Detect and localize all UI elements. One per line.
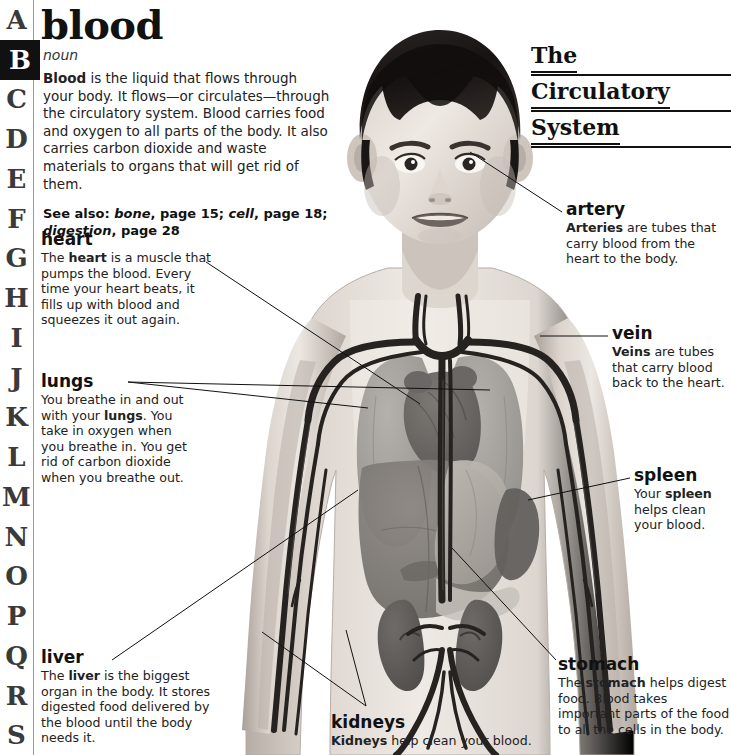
callout-vein: vein Veins are tubes that carry blood ba… (612, 324, 730, 391)
alphabet-index-j[interactable]: J (0, 358, 33, 398)
section-title-line-2: Circulatory (531, 76, 670, 109)
page-title: blood (41, 4, 331, 46)
definition-rest: is the liquid that flows through your bo… (43, 70, 329, 192)
section-title: The Circulatory System (531, 40, 731, 148)
definition-lead-word: Blood (43, 70, 86, 86)
callout-heart: heart The heart is a muscle that pumps t… (41, 230, 213, 328)
see-also-term-bone[interactable]: bone (114, 206, 150, 221)
see-also-sep-1: , (150, 206, 159, 221)
leader-line-liver (112, 490, 358, 660)
callout-liver-body: The liver is the biggest organ in the bo… (41, 668, 217, 746)
callout-kidneys-title: kidneys (331, 713, 591, 732)
part-of-speech: noun (43, 47, 331, 63)
callout-liver: liver The liver is the biggest organ in … (41, 648, 217, 746)
see-also-sep-2: ; (219, 206, 229, 221)
callout-artery: artery Arteries are tubes that carry blo… (566, 200, 726, 267)
callout-artery-body: Arteries are tubes that carry blood from… (566, 220, 726, 267)
alphabet-index-k[interactable]: K (0, 397, 33, 437)
section-title-line-3: System (531, 112, 620, 145)
callout-liver-title: liver (41, 648, 217, 667)
callout-heart-body: The heart is a muscle that pumps the blo… (41, 250, 213, 328)
alphabet-index-q[interactable]: Q (0, 636, 33, 676)
callout-vein-title: vein (612, 324, 730, 343)
section-title-line-1: The (531, 40, 577, 73)
leader-line-artery (470, 152, 562, 212)
callout-spleen-title: spleen (634, 466, 730, 485)
see-also-sep-3: , (254, 206, 263, 221)
leader-line-spleen (528, 478, 630, 500)
callout-spleen-body: Your spleen helps clean your blood. (634, 486, 730, 533)
alphabet-index-f[interactable]: F (0, 199, 33, 239)
alphabet-index-e[interactable]: E (0, 159, 33, 199)
alphabet-index-g[interactable]: G (0, 238, 33, 278)
callout-heart-title: heart (41, 230, 213, 249)
alphabet-index-s[interactable]: S (0, 715, 33, 755)
alphabet-index-o[interactable]: O (0, 556, 33, 596)
alphabet-index-l[interactable]: L (0, 437, 33, 477)
see-also-term-cell[interactable]: cell (229, 206, 254, 221)
alphabet-index-h[interactable]: H (0, 278, 33, 318)
see-also-sep-4: ; (322, 206, 327, 221)
callout-stomach-title: stomach (558, 655, 731, 674)
see-also-page-cell: page 18 (263, 206, 322, 221)
callout-lungs-body: You breathe in and out with your lungs. … (41, 392, 191, 486)
callout-vein-body: Veins are tubes that carry blood back to… (612, 344, 730, 391)
alphabet-index-a[interactable]: A (0, 0, 33, 40)
alphabet-index-d[interactable]: D (0, 119, 33, 159)
alphabet-index-r[interactable]: R (0, 676, 33, 716)
callout-lungs-title: lungs (41, 372, 191, 391)
dictionary-page: ABCDEFGHIJKLMNOPQRS blood noun Blood is … (0, 0, 731, 755)
callout-kidneys: kidneys Kidneys help clean your blood. (331, 713, 591, 749)
see-also-label: See also: (43, 206, 110, 221)
alphabet-index-n[interactable]: N (0, 517, 33, 557)
alphabet-index-m[interactable]: M (0, 477, 33, 517)
callout-kidneys-body: Kidneys help clean your blood. (331, 733, 591, 749)
callout-artery-title: artery (566, 200, 726, 219)
callout-spleen: spleen Your spleen helps clean your bloo… (634, 466, 730, 533)
leader-line-kidney-right (346, 630, 366, 706)
leader-line-heart (206, 262, 420, 404)
leader-line-kidney-left (262, 632, 366, 706)
callout-lungs: lungs You breathe in and out with your l… (41, 372, 191, 486)
leader-line-stomach (452, 548, 556, 660)
definition-text: Blood is the liquid that flows through y… (43, 70, 331, 193)
alphabet-index-rail[interactable]: ABCDEFGHIJKLMNOPQRS (0, 0, 34, 755)
alphabet-index-b[interactable]: B (0, 40, 40, 80)
alphabet-index-c[interactable]: C (0, 79, 33, 119)
alphabet-index-i[interactable]: I (0, 318, 33, 358)
see-also-page-bone: page 15 (160, 206, 219, 221)
alphabet-index-p[interactable]: P (0, 596, 33, 636)
dictionary-entry: blood noun Blood is the liquid that flow… (41, 4, 331, 239)
